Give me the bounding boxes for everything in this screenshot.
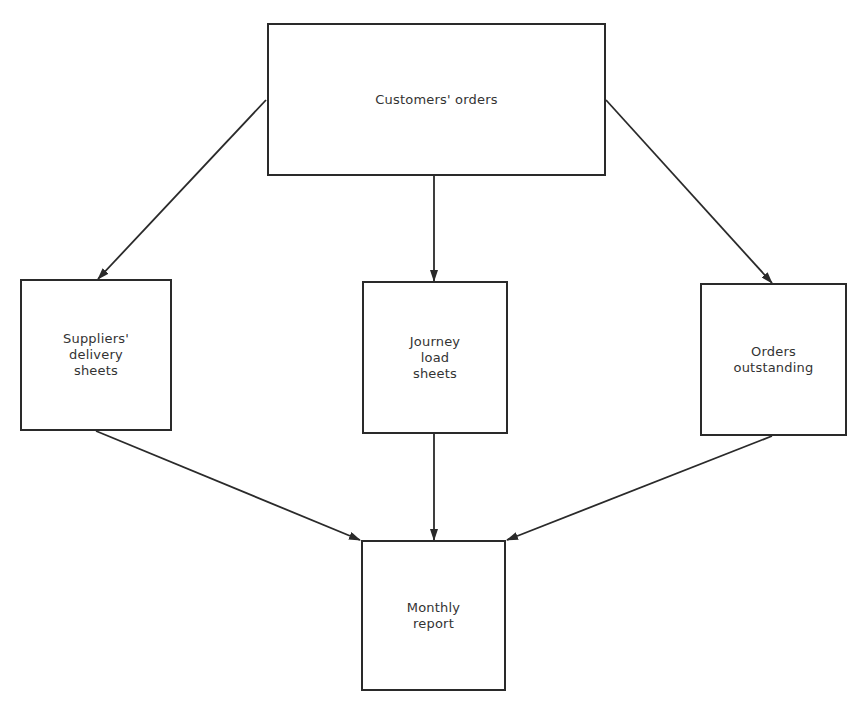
node-label: Customers' orders: [375, 92, 497, 108]
node-suppliers-delivery-sheets: Suppliers' delivery sheets: [20, 279, 172, 431]
node-label: Monthly report: [407, 600, 460, 632]
arrow-customers_orders-to-suppliers_delivery_sheets: [98, 100, 266, 279]
arrow-customers_orders-to-orders_outstanding: [606, 100, 772, 283]
node-customers-orders: Customers' orders: [267, 23, 606, 176]
node-journey-load-sheets: Journey load sheets: [362, 281, 508, 434]
node-monthly-report: Monthly report: [361, 540, 506, 691]
node-orders-outstanding: Orders outstanding: [700, 283, 847, 436]
node-label: Orders outstanding: [734, 344, 814, 376]
arrow-suppliers_delivery_sheets-to-monthly_report: [96, 431, 360, 540]
arrow-orders_outstanding-to-monthly_report: [507, 436, 772, 540]
flow-diagram: Customers' orders Suppliers' delivery sh…: [0, 0, 866, 707]
node-label: Journey load sheets: [410, 334, 460, 382]
node-label: Suppliers' delivery sheets: [63, 331, 129, 379]
